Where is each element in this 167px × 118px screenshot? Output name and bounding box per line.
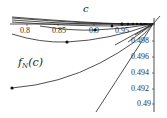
- marker: [132, 23, 135, 26]
- x-axis-label: c: [83, 3, 89, 14]
- x-tick-label: 0.85: [52, 26, 66, 35]
- marker: [65, 40, 68, 43]
- marker: [127, 23, 130, 26]
- x-tick-label: 0.8: [20, 26, 30, 35]
- marker: [121, 23, 124, 26]
- y-tick-label: 0.49: [137, 99, 151, 108]
- marker: [143, 23, 145, 25]
- curve-label: fN(c): [17, 56, 43, 70]
- marker: [93, 28, 96, 31]
- y-tick-label: 0.492: [131, 84, 149, 93]
- marker: [136, 23, 138, 25]
- marker: [140, 23, 142, 25]
- marker: [145, 23, 147, 25]
- chart: 0.8 0.85 0.9 0.95 0.498 0.496 0.494 0.49…: [0, 0, 167, 118]
- marker: [111, 25, 114, 28]
- marker: [10, 86, 13, 89]
- y-tick-label: 0.494: [131, 68, 149, 77]
